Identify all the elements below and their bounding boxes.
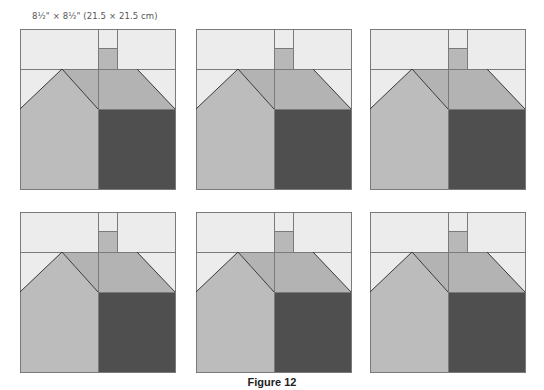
house-block-2 [196,29,352,190]
house-block-1 [20,29,176,190]
house-block-6 [370,212,526,373]
figure-caption: Figure 12 [0,376,544,388]
house-block-5 [196,212,352,373]
house-block-4 [20,212,176,373]
block-size-label: 8½" × 8½" (21.5 × 21.5 cm) [32,11,158,21]
house-block-3 [370,29,526,190]
